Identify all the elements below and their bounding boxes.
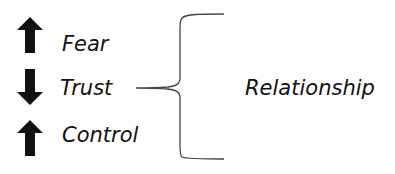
group-label-relationship: Relationship — [245, 78, 375, 99]
